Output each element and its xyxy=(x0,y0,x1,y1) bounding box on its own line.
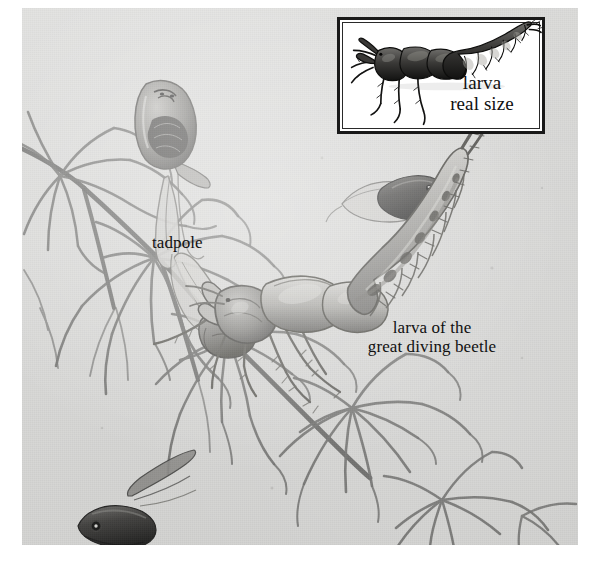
label-tadpole: tadpole xyxy=(152,233,203,252)
illustration-plate: larva real size tadpole larva of the gre… xyxy=(22,8,578,545)
inset-caption: larva real size xyxy=(430,72,534,115)
label-beetle-larva: larva of the great diving beetle xyxy=(352,318,512,356)
illustration-page: larva real size tadpole larva of the gre… xyxy=(0,0,600,562)
real-size-inset: larva real size xyxy=(337,17,545,134)
tadpole-lower-left xyxy=(78,450,196,545)
